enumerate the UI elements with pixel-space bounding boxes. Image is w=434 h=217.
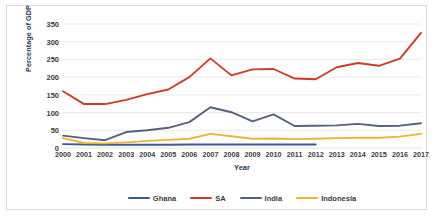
chart-screenshot: Percentage of GDP 350300250200150100500 … [0,0,434,217]
x-axis-tick-labels: 2000200120022003200420052006200720082009… [63,150,421,162]
y-axis-tick-150: 150 [33,90,59,99]
y-axis-tick-100: 100 [33,108,59,117]
y-axis-tick-50: 50 [33,126,59,135]
y-axis-title: Percentage of GDP [24,0,33,94]
y-axis-tick-350: 350 [33,20,59,29]
chart-legend: GhanaSAIndiaIndonesia [63,191,421,205]
line-chart-svg [63,24,421,148]
legend-item-indonesia[interactable]: Indonesia [296,194,356,203]
legend-swatch-icon [240,197,262,199]
legend-swatch-icon [296,197,318,199]
y-axis-tick-300: 300 [33,37,59,46]
legend-swatch-icon [128,197,150,199]
legend-label: Ghana [153,194,176,203]
x-axis-tick-2017: 2017 [409,150,433,159]
legend-label: Indonesia [321,194,356,203]
y-axis-tick-250: 250 [33,55,59,64]
legend-item-india[interactable]: India [240,194,283,203]
x-axis-title: Year [63,163,421,172]
chart-container: Percentage of GDP 350300250200150100500 … [6,5,427,210]
legend-item-ghana[interactable]: Ghana [128,194,176,203]
legend-label: SA [215,194,225,203]
legend-item-sa[interactable]: SA [190,194,225,203]
series-line-sa [63,33,421,104]
y-axis-tick-200: 200 [33,73,59,82]
plot-area [63,24,421,148]
legend-swatch-icon [190,197,212,199]
y-axis-tick-labels: 350300250200150100500 [33,24,59,148]
legend-label: India [265,194,283,203]
